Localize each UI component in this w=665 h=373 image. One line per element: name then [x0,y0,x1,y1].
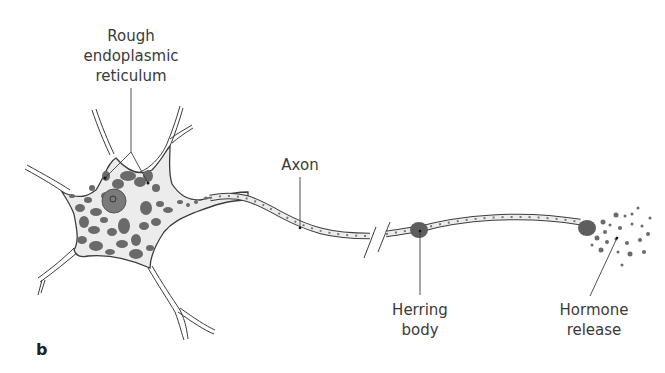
label-rough-er: Rough endoplasmic reticulum [75,26,187,86]
axon-segment-1 [210,196,370,236]
label-herring-line1: Herring [387,300,453,320]
label-hormone-line1: Hormone [544,300,644,320]
hormone-pointer-dot [616,237,619,240]
rer-pointer-dot-2 [147,182,150,185]
label-rough-er-line3: reticulum [75,66,187,86]
herring-body [410,222,428,238]
leader-lines [105,88,617,296]
nucleus [102,189,126,213]
label-axon-text: Axon [281,156,318,174]
label-hormone-release: Hormone release [544,300,644,340]
axon-pointer-dot [299,227,302,230]
hormone-granules [591,207,652,267]
soma [62,146,248,268]
label-herring-body: Herring body [387,300,453,340]
label-axon: Axon [275,155,325,175]
label-herring-line2: body [387,320,453,340]
label-rough-er-line1: Rough [75,26,187,46]
label-rough-er-line2: endoplasmic [75,46,187,66]
label-hormone-line2: release [544,320,644,340]
axon-break-marks [364,222,390,258]
axon-terminal [578,220,596,236]
panel-letter: b [36,340,47,359]
rer-pointer-dot-1 [104,177,107,180]
